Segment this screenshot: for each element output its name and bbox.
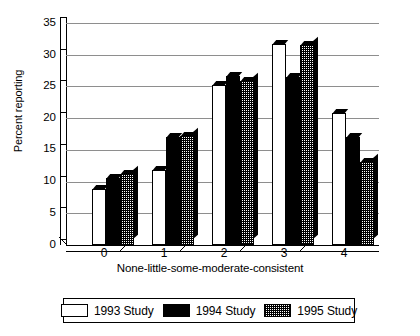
bar-side-face <box>313 37 318 239</box>
y-axis-ticks: 35 30 25 20 15 10 5 0 <box>28 0 56 336</box>
bar-0-1995-study <box>120 174 134 245</box>
y-tick-label-35: 35 <box>30 17 56 29</box>
bar-chart: Percent reporting 35 30 25 20 15 10 5 0 <box>0 0 420 336</box>
y-tick-label-0: 0 <box>30 239 56 251</box>
y-tick-label-5: 5 <box>30 207 56 219</box>
legend-label-1993: 1993 Study <box>94 304 154 318</box>
bar-group-2 <box>212 23 260 245</box>
x-category-separator <box>300 245 307 252</box>
bar-top-face <box>346 133 362 138</box>
y-axis-title: Percent reporting <box>12 31 24 191</box>
x-tick-label-1: 1 <box>152 246 176 260</box>
legend-item-1993: 1993 Study <box>61 304 154 318</box>
y-tick-label-10: 10 <box>30 175 56 187</box>
y-tickmark-10 <box>61 176 66 177</box>
bar-side-face <box>133 166 138 239</box>
bar-group-1 <box>152 23 200 245</box>
y-tickmark-5 <box>61 207 66 208</box>
x-tick-label-4: 4 <box>332 246 356 260</box>
bar-3-1993-study <box>272 44 286 245</box>
legend-label-1995: 1995 Study <box>297 304 357 318</box>
bar-3-1994-study <box>286 77 300 245</box>
bar-side-face <box>373 154 378 239</box>
y-tick-label-30: 30 <box>30 49 56 61</box>
y-tickmark-20 <box>61 112 66 113</box>
x-axis-title: None-little-some-moderate-consistent <box>0 262 420 274</box>
chart-legend: 1993 Study 1994 Study 1995 Study <box>63 298 355 323</box>
y-tickmark-0 <box>61 239 66 240</box>
bar-0-1993-study <box>92 189 106 245</box>
bar-side-face <box>193 128 198 239</box>
bar-group-4 <box>332 23 380 245</box>
bar-1-1994-study <box>166 137 180 245</box>
bar-0-1994-study <box>106 178 120 245</box>
y-tickmark-15 <box>61 144 66 145</box>
y-tickmark-35 <box>61 17 66 18</box>
x-tick-label-2: 2 <box>212 246 236 260</box>
bar-top-face <box>212 81 228 86</box>
bar-top-face <box>332 109 348 114</box>
white-swatch-icon <box>61 304 88 317</box>
y-tickmark-25 <box>61 80 66 81</box>
bar-top-face <box>92 185 108 190</box>
y-axis-line <box>66 17 67 246</box>
plot-area <box>66 23 379 245</box>
hatched-swatch-icon <box>264 304 291 317</box>
y-tick-label-15: 15 <box>30 143 56 155</box>
bar-group-0 <box>92 23 140 245</box>
bar-top-face <box>286 73 302 78</box>
bar-3-1995-study <box>300 45 314 245</box>
bar-top-face <box>166 133 182 138</box>
x-tick-label-0: 0 <box>92 246 116 260</box>
black-swatch-icon <box>163 304 190 317</box>
bar-4-1995-study <box>360 162 374 245</box>
y-tick-label-25: 25 <box>30 80 56 92</box>
bar-1-1993-study <box>152 170 166 245</box>
x-category-separator <box>180 245 187 252</box>
bar-4-1993-study <box>332 113 346 245</box>
bar-2-1994-study <box>226 76 240 245</box>
legend-item-1994: 1994 Study <box>163 304 256 318</box>
bar-4-1994-study <box>346 137 360 245</box>
bar-top-face <box>272 40 288 45</box>
x-tick-label-3: 3 <box>272 246 296 260</box>
legend-label-1994: 1994 Study <box>196 304 256 318</box>
y-tickmark-30 <box>61 49 66 50</box>
bar-top-face <box>226 72 242 77</box>
bar-2-1995-study <box>240 81 254 245</box>
bar-1-1995-study <box>180 136 194 245</box>
x-category-separator <box>120 245 127 252</box>
x-category-separator <box>240 245 247 252</box>
bar-top-face <box>152 166 168 171</box>
plot-back-wall-edge <box>60 17 61 245</box>
legend-item-1995: 1995 Study <box>264 304 357 318</box>
y-tick-label-20: 20 <box>30 112 56 124</box>
bar-group-3 <box>272 23 320 245</box>
bar-side-face <box>253 73 258 239</box>
bar-2-1993-study <box>212 85 226 245</box>
